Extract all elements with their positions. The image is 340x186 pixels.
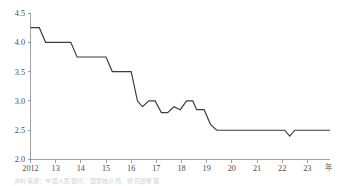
- x-tick-label: 14: [77, 164, 85, 173]
- x-tick-label: 15: [102, 164, 110, 173]
- y-tick-label: 3.0: [15, 97, 25, 106]
- y-tick-label: 2.5: [15, 126, 25, 135]
- data-series-group: [31, 28, 331, 136]
- x-tick-label: 2012: [22, 164, 38, 173]
- x-tick-label: 13: [52, 164, 60, 173]
- x-axis-unit-label: 年: [325, 162, 333, 172]
- x-tick-label: 20: [228, 164, 236, 173]
- x-tick-label: 17: [152, 164, 160, 173]
- y-tick-label: 4.0: [15, 38, 25, 47]
- series-line-interest-rate: [31, 28, 331, 136]
- x-tick-label: 21: [253, 164, 261, 173]
- figure-source-caption: 资料来源：中国人民银行、国家统计局、研究部整理: [14, 177, 334, 185]
- x-axis-ticks: [31, 160, 308, 163]
- x-tick-label: 23: [303, 164, 311, 173]
- line-chart-plot: 2.02.53.03.54.04.5 201213141516171819202…: [0, 0, 340, 186]
- y-tick-label: 4.5: [15, 9, 25, 18]
- x-tick-label: 18: [177, 164, 185, 173]
- chart-figure: 2.02.53.03.54.04.5 201213141516171819202…: [0, 0, 340, 186]
- y-tick-label: 3.5: [15, 68, 25, 77]
- x-tick-label: 16: [127, 164, 135, 173]
- x-tick-label: 19: [203, 164, 211, 173]
- x-axis-tick-labels: 20121314151617181920212223: [22, 164, 311, 173]
- y-axis-ticks: [28, 13, 31, 160]
- x-tick-label: 22: [278, 164, 286, 173]
- y-axis-tick-labels: 2.02.53.03.54.04.5: [15, 9, 25, 165]
